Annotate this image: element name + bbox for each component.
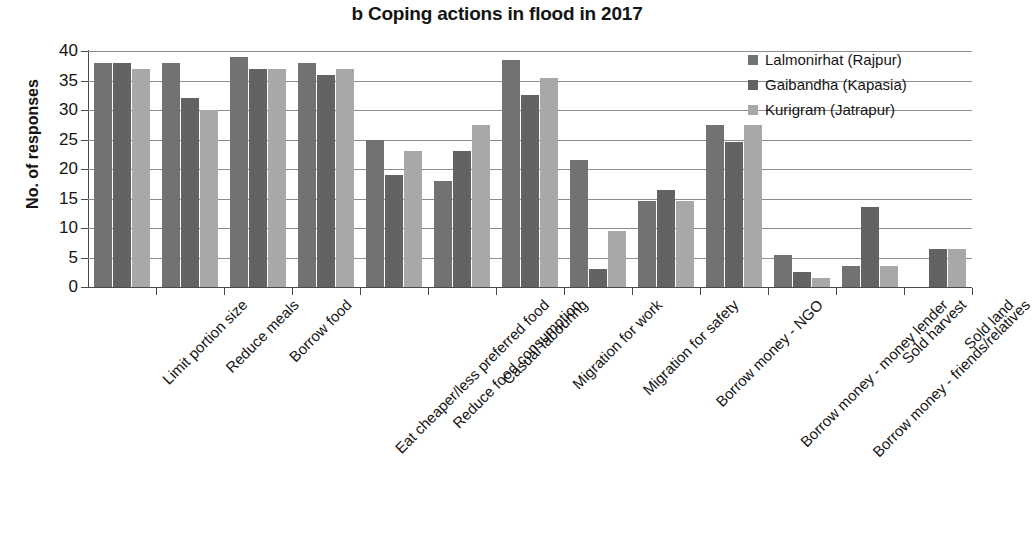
bar[interactable]: [200, 110, 218, 287]
x-axis-tick-mark: [972, 288, 973, 295]
bar[interactable]: [472, 125, 490, 287]
x-axis-tick-mark: [428, 288, 429, 295]
legend-swatch-icon: [748, 105, 758, 115]
x-axis-tick-label: Borrow money - money lender: [797, 296, 951, 450]
y-axis-tick-label: 5: [48, 249, 78, 266]
y-axis-tick-label: 20: [48, 160, 78, 177]
y-axis-tick-label: 0: [48, 278, 78, 295]
bar[interactable]: [657, 190, 675, 287]
bar-group: [298, 51, 354, 287]
bar[interactable]: [929, 249, 947, 287]
bar-group: [162, 51, 218, 287]
bar[interactable]: [502, 60, 520, 287]
bar[interactable]: [570, 160, 588, 287]
x-axis-tick-mark: [156, 288, 157, 295]
y-axis-tick-label: 30: [48, 101, 78, 118]
bar[interactable]: [540, 78, 558, 287]
x-axis-tick-mark: [904, 288, 905, 295]
gridline: [88, 287, 972, 288]
bar[interactable]: [181, 98, 199, 287]
bar[interactable]: [113, 63, 131, 287]
bar[interactable]: [706, 125, 724, 287]
bar[interactable]: [434, 181, 452, 287]
y-axis-tick-mark: [81, 140, 88, 141]
bar-group: [502, 51, 558, 287]
bar[interactable]: [94, 63, 112, 287]
bar[interactable]: [774, 255, 792, 287]
bar[interactable]: [249, 69, 267, 287]
bar[interactable]: [812, 278, 830, 287]
y-axis-tick-mark: [81, 110, 88, 111]
x-axis-tick-mark: [496, 288, 497, 295]
bar[interactable]: [162, 63, 180, 287]
bar[interactable]: [404, 151, 422, 287]
bar[interactable]: [298, 63, 316, 287]
bar[interactable]: [132, 69, 150, 287]
x-axis-tick-label-text: Eat cheaper/less preferred food: [392, 296, 553, 457]
chart-title: b Coping actions in flood in 2017: [0, 3, 994, 25]
bar[interactable]: [608, 231, 626, 287]
legend-swatch-icon: [748, 55, 758, 65]
y-axis-tick-labels: 4035302520151050: [44, 0, 78, 300]
bar[interactable]: [725, 142, 743, 287]
bar[interactable]: [268, 69, 286, 287]
bar[interactable]: [638, 201, 656, 287]
bar[interactable]: [842, 266, 860, 287]
bar[interactable]: [676, 201, 694, 287]
x-axis-tick-mark: [836, 288, 837, 295]
bar[interactable]: [230, 57, 248, 287]
x-axis-tick-mark: [700, 288, 701, 295]
bar-group: [434, 51, 490, 287]
x-axis-tick-label-text: Borrow money - money lender: [797, 296, 951, 450]
y-axis-tick-mark: [81, 228, 88, 229]
x-axis-tick-mark: [564, 288, 565, 295]
bar[interactable]: [385, 175, 403, 287]
bar[interactable]: [521, 95, 539, 287]
chart-legend: Lalmonirhat (Rajpur) Gaibandha (Kapasia)…: [748, 47, 988, 122]
y-axis-title: No. of responses: [24, 64, 42, 224]
x-axis-tick-label: Eat cheaper/less preferred food: [392, 296, 553, 457]
bar[interactable]: [317, 75, 335, 287]
bar-group: [230, 51, 286, 287]
legend-item-label: Lalmonirhat (Rajpur): [765, 51, 902, 68]
bar[interactable]: [453, 151, 471, 287]
legend-item-label: Kurigram (Jatrapur): [765, 101, 895, 118]
bar[interactable]: [793, 272, 811, 287]
x-axis-tick-mark: [768, 288, 769, 295]
y-axis-tick-label: 35: [48, 72, 78, 89]
bar[interactable]: [366, 140, 384, 288]
y-axis-tick-label: 40: [48, 42, 78, 59]
y-axis-tick-label: 15: [48, 190, 78, 207]
bar[interactable]: [880, 266, 898, 287]
x-axis-tick-labels: Limit portion sizeReduce mealsBorrow foo…: [0, 296, 994, 546]
bar[interactable]: [589, 269, 607, 287]
x-axis-tick-mark: [360, 288, 361, 295]
x-axis-tick-mark: [292, 288, 293, 295]
y-axis-tick-mark: [81, 199, 88, 200]
bar[interactable]: [861, 207, 879, 287]
y-axis-tick-mark: [81, 81, 88, 82]
bar-group: [570, 51, 626, 287]
x-axis-tick-label: Limit portion size: [159, 296, 251, 388]
legend-item[interactable]: Gaibandha (Kapasia): [748, 72, 988, 97]
bar-group: [94, 51, 150, 287]
y-axis-tick-mark: [81, 51, 88, 52]
bar[interactable]: [744, 125, 762, 287]
legend-swatch-icon: [748, 80, 758, 90]
y-axis-tick-mark: [81, 258, 88, 259]
y-axis-tick-label: 10: [48, 219, 78, 236]
y-axis-tick-mark: [81, 287, 88, 288]
legend-item[interactable]: Kurigram (Jatrapur): [748, 97, 988, 122]
bar[interactable]: [336, 69, 354, 287]
legend-item[interactable]: Lalmonirhat (Rajpur): [748, 47, 988, 72]
x-axis-tick-mark: [632, 288, 633, 295]
y-axis-tick-mark: [81, 169, 88, 170]
bar[interactable]: [948, 249, 966, 287]
x-axis-tick-label-text: Limit portion size: [159, 296, 251, 388]
x-axis-tick-mark: [224, 288, 225, 295]
bar-group: [638, 51, 694, 287]
bar-group: [366, 51, 422, 287]
y-axis-tick-label: 25: [48, 131, 78, 148]
legend-item-label: Gaibandha (Kapasia): [765, 76, 907, 93]
